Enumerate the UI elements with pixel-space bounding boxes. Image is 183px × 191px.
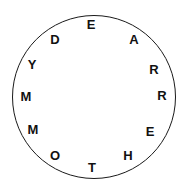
ring-letter: R [155,89,169,103]
ring-letter: A [127,33,141,47]
ring-letter: H [121,149,135,163]
ring-letter: E [143,125,157,139]
ring-letter: D [48,33,62,47]
ring-letter: R [147,63,161,77]
ring-letter: Y [25,58,39,72]
ring-letter: M [26,123,40,137]
ring-letter: O [48,149,62,163]
letter-circle-diagram: E A R R E H T O M M Y D [0,0,183,191]
circle-outline [12,15,176,179]
ring-letter: M [19,90,33,104]
ring-letter: E [84,18,98,32]
ring-letter: T [85,161,99,175]
